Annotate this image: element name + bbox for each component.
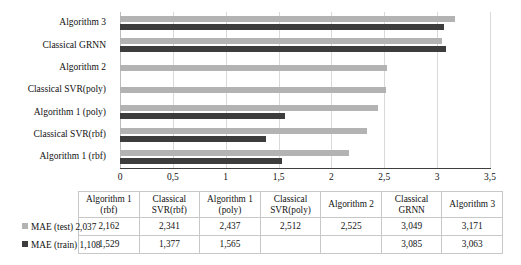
bar-test — [120, 105, 378, 111]
x-tick-label: 0,5 — [167, 170, 179, 184]
table-header-cell: Classical SVR(rbf) — [139, 192, 200, 218]
x-tick-label: 3,5 — [484, 170, 496, 184]
bar-test — [120, 65, 387, 71]
x-axis-tick-labels: 00,511,522,533,5 — [0, 170, 521, 186]
category-label: Algorithm 1 (rbf) — [0, 146, 112, 168]
data-table: Algorithm 1 (rbf) Classical SVR(rbf) Alg… — [18, 191, 503, 254]
bar-test — [120, 16, 455, 22]
chart-page: Algorithm 3 Classical GRNN Algorithm 2 C… — [0, 0, 521, 265]
legend-swatch-icon — [22, 241, 28, 247]
bar-train — [120, 46, 446, 52]
bar-test — [120, 87, 386, 93]
bar-group — [120, 12, 490, 34]
bar-test — [120, 38, 442, 44]
category-label: Algorithm 1 (poly) — [0, 101, 112, 123]
bar-group — [120, 101, 490, 123]
table-header-cell: Algorithm 1 (poly) — [200, 192, 261, 218]
gridline — [490, 12, 491, 168]
table-row: MAE (train) 1,1081,5291,3771,5653,0853,0… — [18, 236, 503, 254]
data-table-wrapper: Algorithm 1 (rbf) Classical SVR(rbf) Alg… — [0, 191, 521, 265]
table-header-cell: Algorithm 2 — [321, 192, 382, 218]
legend-label: MAE (test) 2,037 — [31, 222, 96, 232]
bar-group — [120, 146, 490, 168]
bar-test — [120, 150, 349, 156]
table-cell: 3,063 — [442, 236, 503, 254]
table-body: MAE (test) 2,0372,1622,3412,4372,5122,52… — [18, 218, 503, 254]
table-row: MAE (test) 2,0372,1622,3412,4372,5122,52… — [18, 218, 503, 236]
table-header-cell: Classical GRNN — [381, 192, 442, 218]
category-label: Classical SVR(rbf) — [0, 123, 112, 145]
legend-swatch-icon — [22, 223, 28, 229]
category-label: Algorithm 2 — [0, 57, 112, 79]
plot-area — [120, 12, 490, 168]
legend-entry[interactable]: MAE (train) 1,108 — [18, 236, 79, 254]
legend-label: MAE (train) 1,108 — [31, 240, 100, 250]
x-tick-label: 1 — [223, 170, 228, 184]
table-header-cell: Algorithm 1 (rbf) — [79, 192, 140, 218]
table-cell: 1,377 — [139, 236, 200, 254]
category-label: Classical SVR(poly) — [0, 79, 112, 101]
table-corner-cell — [18, 192, 79, 218]
legend-entry[interactable]: MAE (test) 2,037 — [18, 218, 79, 236]
bar-train — [120, 113, 285, 119]
table-cell: 2,525 — [321, 218, 382, 236]
bar-train — [120, 136, 266, 142]
bar-train — [120, 158, 282, 164]
bar-group — [120, 123, 490, 145]
x-axis-line — [120, 168, 491, 169]
x-tick-label: 0 — [118, 170, 123, 184]
table-cell: 3,085 — [381, 236, 442, 254]
bar-train — [120, 24, 444, 30]
bar-rows — [120, 12, 490, 168]
bar-test — [120, 128, 367, 134]
bar-group — [120, 57, 490, 79]
bar-group — [120, 79, 490, 101]
table-cell: 3,171 — [442, 218, 503, 236]
bar-group — [120, 34, 490, 56]
category-axis-labels: Algorithm 3 Classical GRNN Algorithm 2 C… — [0, 12, 112, 168]
x-tick-label: 2,5 — [378, 170, 390, 184]
category-label: Classical GRNN — [0, 34, 112, 56]
table-cell: 2,341 — [139, 218, 200, 236]
x-tick-label: 1,5 — [273, 170, 285, 184]
table-cell — [321, 236, 382, 254]
table-head: Algorithm 1 (rbf) Classical SVR(rbf) Alg… — [18, 192, 503, 218]
bar-chart: Algorithm 3 Classical GRNN Algorithm 2 C… — [0, 0, 521, 192]
x-tick-label: 2 — [329, 170, 334, 184]
table-cell — [260, 236, 321, 254]
x-tick-label: 3 — [435, 170, 440, 184]
table-cell: 3,049 — [381, 218, 442, 236]
table-cell: 1,565 — [200, 236, 261, 254]
table-cell: 2,437 — [200, 218, 261, 236]
table-header-row: Algorithm 1 (rbf) Classical SVR(rbf) Alg… — [18, 192, 503, 218]
category-label: Algorithm 3 — [0, 12, 112, 34]
table-header-cell: Algorithm 3 — [442, 192, 503, 218]
table-header-cell: Classical SVR(poly) — [260, 192, 321, 218]
table-cell: 2,512 — [260, 218, 321, 236]
